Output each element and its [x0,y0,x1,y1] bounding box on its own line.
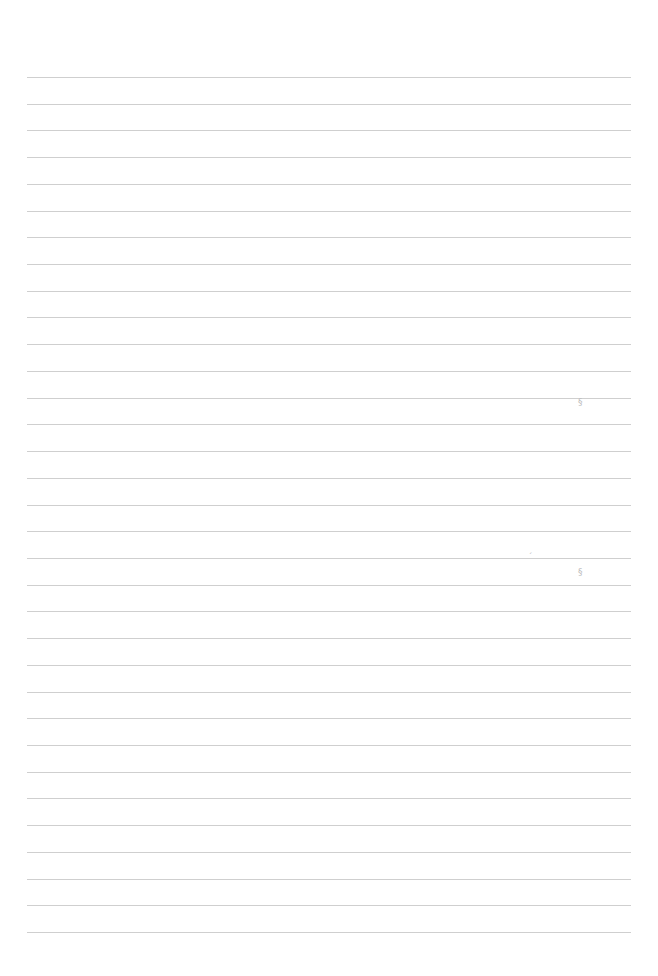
ruled-line [27,130,631,131]
ruled-line [27,772,631,773]
ruled-line [27,264,631,265]
faint-mark-3: § [578,568,583,576]
ruled-line [27,718,631,719]
faint-mark-1: § [578,398,583,406]
ruled-line [27,531,631,532]
ruled-line [27,317,631,318]
ruled-page: §ˊ§ [0,0,658,976]
ruled-line [27,879,631,880]
faint-mark-2: ˊ [528,553,533,561]
ruled-line [27,211,631,212]
ruled-line [27,825,631,826]
ruled-line [27,291,631,292]
ruled-line [27,745,631,746]
ruled-line [27,611,631,612]
ruled-line [27,237,631,238]
ruled-line [27,905,631,906]
ruled-line [27,77,631,78]
ruled-line [27,424,631,425]
ruled-line [27,665,631,666]
ruled-line [27,932,631,933]
ruled-line [27,157,631,158]
ruled-line [27,558,631,559]
ruled-line [27,798,631,799]
ruled-line [27,104,631,105]
ruled-line [27,852,631,853]
ruled-line [27,478,631,479]
ruled-line [27,505,631,506]
ruled-line [27,184,631,185]
ruled-line [27,371,631,372]
ruled-line [27,638,631,639]
ruled-line [27,451,631,452]
ruled-line [27,585,631,586]
ruled-line [27,344,631,345]
ruled-line [27,692,631,693]
ruled-line [27,398,631,399]
